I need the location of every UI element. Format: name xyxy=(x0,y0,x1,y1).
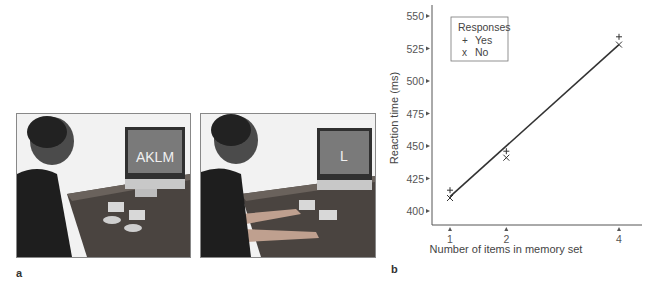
y-tick-label: 550 xyxy=(406,10,424,22)
reaction-time-chart: 400425450475500525550124 Responses+YesxN… xyxy=(380,0,656,286)
y-tick-marker xyxy=(426,47,430,51)
legend-entry-label: Yes xyxy=(475,34,492,46)
x-tick-marker xyxy=(617,227,621,231)
panel-label-a: a xyxy=(16,267,22,279)
cross-icon: x xyxy=(462,47,467,58)
x-axis-label: Number of items in memory set xyxy=(430,243,583,255)
y-tick-marker xyxy=(426,112,430,116)
legend-title: Responses xyxy=(458,21,511,33)
panel-label-b: b xyxy=(391,263,398,275)
plus-icon: + xyxy=(462,35,468,46)
x-tick-label: 4 xyxy=(616,233,622,245)
screen-text: L xyxy=(340,148,348,164)
x-tick-marker xyxy=(448,227,452,231)
chart-ticks: 400425450475500525550124 xyxy=(406,10,622,245)
y-tick-label: 450 xyxy=(406,140,424,152)
chart-legend: Responses+YesxNo xyxy=(451,17,511,61)
y-tick-label: 400 xyxy=(406,205,424,217)
yes-marker xyxy=(447,187,453,193)
y-tick-label: 425 xyxy=(406,173,424,185)
y-tick-marker xyxy=(426,14,430,18)
legend-entry-label: No xyxy=(475,46,489,58)
y-tick-label: 475 xyxy=(406,108,424,120)
no-marker xyxy=(503,155,509,161)
x-tick-marker xyxy=(504,227,508,231)
y-tick-marker xyxy=(426,79,430,83)
y-tick-marker xyxy=(426,177,430,181)
screen-text: AKLM xyxy=(136,149,174,165)
y-tick-marker xyxy=(426,144,430,148)
y-tick-label: 525 xyxy=(406,43,424,55)
fit-line xyxy=(450,45,619,197)
y-axis-label: Reaction time (ms) xyxy=(388,72,400,164)
probe-scene-illustration: L xyxy=(201,114,375,257)
photo-memorize: AKLM xyxy=(16,113,191,258)
yes-marker xyxy=(616,34,622,40)
photo-probe: L xyxy=(200,113,376,258)
yes-marker xyxy=(503,148,509,154)
regression-line xyxy=(450,45,619,197)
y-tick-marker xyxy=(426,209,430,213)
y-tick-label: 500 xyxy=(406,75,424,87)
no-marker xyxy=(616,42,622,48)
memorize-scene-illustration: AKLM xyxy=(17,114,190,257)
